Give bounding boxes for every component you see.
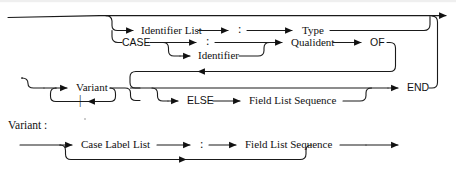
node-alternation-bar: | xyxy=(79,93,81,107)
node-colon-1: : xyxy=(238,22,241,36)
diagram-variant: Variant : Case Label List : Field List S… xyxy=(8,119,398,160)
node-qualident: Qualident xyxy=(291,36,334,48)
type-rejoin-rail xyxy=(330,17,430,31)
branch-to-else xyxy=(152,88,168,101)
wrap-down-to-variant xyxy=(130,72,140,89)
node-case: CASE xyxy=(122,36,151,48)
branch-to-identifier-list xyxy=(106,16,122,31)
node-case-label-list: Case Label List xyxy=(81,138,150,150)
node-type: Type xyxy=(302,24,324,36)
node-colon-variant: : xyxy=(200,137,203,151)
node-identifier: Identifier xyxy=(198,49,239,61)
branch-to-identifier xyxy=(163,43,180,57)
node-identifier-list: Identifier List xyxy=(141,24,202,36)
entry-rail xyxy=(8,16,106,18)
field-list-sequence-rejoin xyxy=(343,88,372,101)
identifier-rejoin-rail xyxy=(239,43,270,57)
syntax-diagram-page: Identifier List : Type CASE : Identifier xyxy=(0,0,456,180)
node-end: END xyxy=(407,81,430,93)
of-wrap-rail xyxy=(136,43,396,72)
rule-label-variant: Variant : xyxy=(8,119,47,131)
node-of: OF xyxy=(370,36,385,48)
node-field-list-sequence-1: Field List Sequence xyxy=(249,94,336,106)
variant-group-entry-stub xyxy=(22,78,44,88)
railroad-diagram-canvas: Identifier List : Type CASE : Identifier xyxy=(0,0,456,180)
node-field-list-sequence-2: Field List Sequence xyxy=(245,138,332,150)
node-else: ELSE xyxy=(187,94,214,106)
node-colon-2: : xyxy=(206,34,209,48)
branch-to-case xyxy=(112,31,122,43)
node-variant: Variant xyxy=(76,81,108,93)
diagram-field-list: Identifier List : Type CASE : Identifier xyxy=(8,16,446,107)
